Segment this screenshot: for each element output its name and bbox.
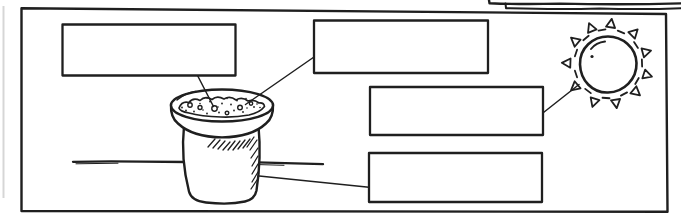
sun — [562, 18, 654, 109]
cutoff-banner — [489, 0, 681, 9]
label-box-1-rect[interactable] — [63, 25, 236, 76]
flower-pot — [171, 90, 273, 204]
label-box-3-rect[interactable] — [370, 87, 543, 135]
ground-line-right-texture — [259, 165, 285, 166]
connector-line-box2-to-soil — [246, 57, 315, 105]
ground-line-left — [73, 161, 186, 162]
label-box-4-rect[interactable] — [369, 153, 542, 202]
ground-line-right — [257, 162, 323, 164]
label-box-1[interactable] — [63, 25, 236, 76]
connector-line-pot-to-box4 — [257, 176, 369, 187]
worksheet-drawing — [0, 0, 681, 221]
label-box-2[interactable] — [314, 21, 488, 74]
ground-line-left-texture — [76, 163, 118, 164]
sun-highlight-dot — [590, 55, 593, 58]
connector-line-box3-to-sun — [544, 85, 580, 113]
label-box-3[interactable] — [370, 87, 543, 135]
sun-circle — [580, 37, 637, 93]
cutoff-banner-outer-edge — [489, 0, 681, 4]
label-box-4[interactable] — [369, 153, 542, 202]
label-box-2-rect[interactable] — [314, 21, 488, 74]
worksheet-page — [0, 0, 681, 221]
